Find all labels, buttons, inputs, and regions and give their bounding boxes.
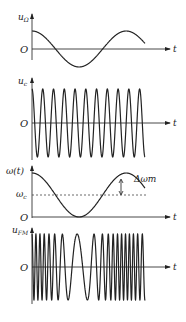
panel-carrier: uc O t xyxy=(18,76,177,160)
y-axis-label: uFM xyxy=(12,225,29,236)
t-label: t xyxy=(173,44,177,54)
origin-label: O xyxy=(20,118,28,129)
origin-label: O xyxy=(20,262,28,273)
origin-label: O xyxy=(20,44,28,55)
t-label: t xyxy=(173,262,177,272)
center-frequency-label: ωc xyxy=(16,189,27,200)
fm-diagram: uΩ O t uc O t ω(t) ωc O t Δωm uFM O t xyxy=(0,0,186,322)
panel-instantaneous-frequency: ω(t) ωc O t Δωm xyxy=(6,166,177,223)
y-axis-label: uΩ xyxy=(18,12,29,23)
panel-modulating: uΩ O t xyxy=(18,12,177,67)
y-axis-label: ω(t) xyxy=(6,166,24,176)
t-label: t xyxy=(173,118,177,128)
origin-label: O xyxy=(20,212,28,223)
deviation-label: Δωm xyxy=(133,174,156,184)
t-label: t xyxy=(173,212,177,222)
panel-fm-output: uFM O t xyxy=(12,225,177,304)
y-axis-label: uc xyxy=(18,76,28,87)
